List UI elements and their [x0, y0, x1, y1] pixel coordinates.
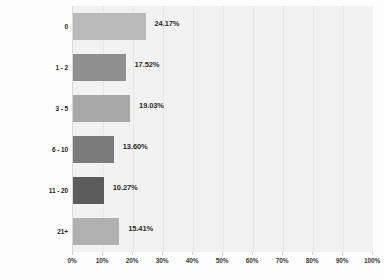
x-tick-mark	[312, 252, 313, 255]
x-tick-label: 80%	[306, 257, 319, 264]
bar-row: 17.52%	[73, 47, 373, 88]
category-label: 0	[4, 23, 68, 30]
bar[interactable]	[73, 177, 104, 204]
x-tick-label: 20%	[126, 257, 139, 264]
bar-value-label: 13.60%	[123, 142, 148, 151]
bar-row: 19.03%	[73, 88, 373, 129]
category-label: 6 - 10	[4, 146, 68, 153]
x-tick-label: 0%	[67, 257, 76, 264]
x-tick-mark	[72, 252, 73, 255]
x-axis: 0%10%20%30%40%50%60%70%80%90%100%	[72, 252, 372, 272]
bar-chart: 24.17%17.52%19.03%13.60%10.27%15.41% 01 …	[0, 0, 384, 280]
x-tick-mark	[342, 252, 343, 255]
plot-area: 24.17%17.52%19.03%13.60%10.27%15.41%	[72, 6, 373, 252]
bar-value-label: 10.27%	[113, 183, 138, 192]
x-tick-mark	[132, 252, 133, 255]
x-tick-label: 10%	[96, 257, 109, 264]
y-axis-category-labels: 01 - 23 - 56 - 1011 - 2021+	[0, 6, 68, 252]
x-tick-mark	[162, 252, 163, 255]
x-tick-mark	[252, 252, 253, 255]
bar-value-label: 15.41%	[128, 224, 153, 233]
category-label: 21+	[4, 228, 68, 235]
category-label: 11 - 20	[4, 187, 68, 194]
x-tick-label: 40%	[186, 257, 199, 264]
x-tick-label: 50%	[216, 257, 229, 264]
category-label: 1 - 2	[4, 64, 68, 71]
bar-row: 10.27%	[73, 170, 373, 211]
bar-row: 24.17%	[73, 6, 373, 47]
bar[interactable]	[73, 95, 130, 122]
bar[interactable]	[73, 54, 126, 81]
bar-row: 13.60%	[73, 129, 373, 170]
bar[interactable]	[73, 136, 114, 163]
bar-value-label: 24.17%	[155, 19, 180, 28]
x-tick-mark	[192, 252, 193, 255]
bar[interactable]	[73, 13, 146, 40]
x-tick-label: 30%	[156, 257, 169, 264]
bar-value-label: 17.52%	[135, 60, 160, 69]
bar-row: 15.41%	[73, 211, 373, 252]
x-tick-mark	[372, 252, 373, 255]
category-label: 3 - 5	[4, 105, 68, 112]
x-tick-mark	[102, 252, 103, 255]
bar-value-label: 19.03%	[139, 101, 164, 110]
x-tick-label: 90%	[336, 257, 349, 264]
x-tick-mark	[282, 252, 283, 255]
x-tick-mark	[222, 252, 223, 255]
x-tick-label: 60%	[246, 257, 259, 264]
x-tick-label: 70%	[276, 257, 289, 264]
x-tick-label: 100%	[364, 257, 380, 264]
bar[interactable]	[73, 218, 119, 245]
